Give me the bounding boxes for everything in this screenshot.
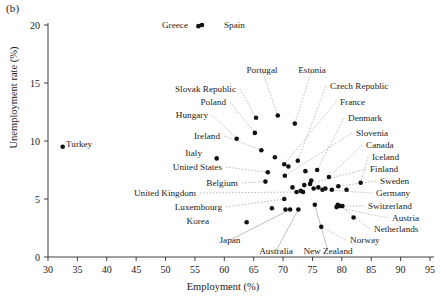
point-labels: TurkeyGreeceSpainSlovak RepublicPolandPo… xyxy=(66,20,419,256)
point-label: Korea xyxy=(187,216,209,226)
data-point-estonia[interactable] xyxy=(293,121,298,126)
point-label: Sweden xyxy=(380,176,409,186)
point-label: Slovenia xyxy=(356,128,388,138)
point-label: Finland xyxy=(370,164,398,174)
x-tick-label: 90 xyxy=(396,264,406,275)
data-point-czech-republic[interactable] xyxy=(295,158,300,163)
point-label: Estonia xyxy=(298,65,326,75)
point-label: Slovak Republic xyxy=(175,84,236,94)
x-tick-label: 60 xyxy=(219,264,229,275)
x-tick-label: 40 xyxy=(102,264,112,275)
point-label: Spain xyxy=(224,20,245,30)
data-point[interactable] xyxy=(316,185,321,190)
point-label: Switzerland xyxy=(368,201,412,211)
point-label: Hungary xyxy=(176,110,209,120)
point-label: Portugal xyxy=(246,65,278,75)
y-tick-label: 20 xyxy=(30,20,40,31)
data-point-netherlands[interactable] xyxy=(338,204,343,209)
data-point-new-zealand[interactable] xyxy=(313,203,318,208)
data-point-iceland[interactable] xyxy=(358,180,363,185)
y-tick-label: 15 xyxy=(30,78,40,89)
data-point-spain[interactable] xyxy=(200,23,205,28)
data-point-korea[interactable] xyxy=(244,220,249,225)
data-point-hungary[interactable] xyxy=(234,136,239,141)
point-label: Australia xyxy=(259,246,293,256)
x-tick-label: 75 xyxy=(307,264,317,275)
data-point[interactable] xyxy=(303,169,308,174)
data-point-slovenia[interactable] xyxy=(283,174,288,179)
data-point[interactable] xyxy=(344,187,349,192)
figure-panel: (b) Unemployment rate (%) Employment (%)… xyxy=(0,0,446,300)
data-point-australia[interactable] xyxy=(296,207,301,212)
data-points xyxy=(60,23,363,229)
y-tick-label: 0 xyxy=(35,252,40,263)
data-point-finland[interactable] xyxy=(302,183,307,188)
data-point[interactable] xyxy=(311,186,316,191)
data-point[interactable] xyxy=(273,155,278,160)
point-label: Denmark xyxy=(348,113,383,123)
data-point-slovak-republic[interactable] xyxy=(254,116,259,121)
data-point-portugal[interactable] xyxy=(275,113,280,118)
x-tick-label: 85 xyxy=(366,264,376,275)
data-point[interactable] xyxy=(270,206,275,211)
y-tick-label: 5 xyxy=(35,194,40,205)
data-point-luxembourg[interactable] xyxy=(282,197,287,202)
data-point-italy[interactable] xyxy=(214,156,219,161)
data-point-germany[interactable] xyxy=(320,187,325,192)
data-point-norway[interactable] xyxy=(319,225,324,230)
point-label: Poland xyxy=(200,97,226,107)
point-label: France xyxy=(340,97,365,107)
data-point[interactable] xyxy=(330,187,335,192)
point-label: Norway xyxy=(350,235,380,245)
point-label: Japan xyxy=(220,235,241,245)
x-tick-label: 50 xyxy=(161,264,171,275)
point-label: Belgium xyxy=(206,178,238,188)
point-label: Austria xyxy=(392,213,419,223)
point-label: Canada xyxy=(366,140,394,150)
y-tick-label: 10 xyxy=(30,136,40,147)
x-tick-label: 30 xyxy=(43,264,53,275)
data-point-france[interactable] xyxy=(282,162,287,167)
point-label: Ireland xyxy=(194,131,220,141)
data-point-japan[interactable] xyxy=(288,207,293,212)
data-point[interactable] xyxy=(286,164,291,169)
data-point-united-kingdom[interactable] xyxy=(294,190,299,195)
data-point-sweden[interactable] xyxy=(336,184,341,189)
point-label: Netherlands xyxy=(374,224,419,234)
data-point[interactable] xyxy=(351,215,356,220)
point-label: Czech Republic xyxy=(330,81,388,91)
data-point-denmark[interactable] xyxy=(315,168,320,173)
x-tick-label: 70 xyxy=(278,264,288,275)
data-point-canada[interactable] xyxy=(327,175,332,180)
x-tick-label: 55 xyxy=(190,264,200,275)
x-tick-label: 45 xyxy=(131,264,141,275)
x-tick-label: 80 xyxy=(337,264,347,275)
data-point-united-states[interactable] xyxy=(265,170,270,175)
data-point-poland[interactable] xyxy=(253,131,258,136)
point-label: United Kingdom xyxy=(134,188,196,198)
data-point[interactable] xyxy=(301,190,306,195)
data-point[interactable] xyxy=(283,207,288,212)
point-label: Greece xyxy=(162,20,188,30)
data-point-ireland[interactable] xyxy=(259,148,264,153)
x-tick-label: 65 xyxy=(249,264,259,275)
point-label: Turkey xyxy=(66,139,93,149)
point-label: United States xyxy=(173,162,223,172)
point-label: Iceland xyxy=(372,152,399,162)
data-point[interactable] xyxy=(309,178,314,183)
data-point-belgium[interactable] xyxy=(263,179,268,184)
point-label: Germany xyxy=(376,188,411,198)
point-label: New Zealand xyxy=(303,246,353,256)
point-label: Luxembourg xyxy=(175,202,223,212)
data-point-turkey[interactable] xyxy=(60,145,65,150)
point-label: Italy xyxy=(185,148,202,158)
scatter-plot: 303540455055606570758085909505101520 Tur… xyxy=(0,0,446,300)
x-tick-label: 35 xyxy=(72,264,82,275)
x-tick-label: 95 xyxy=(425,264,435,275)
data-point[interactable] xyxy=(290,185,295,190)
